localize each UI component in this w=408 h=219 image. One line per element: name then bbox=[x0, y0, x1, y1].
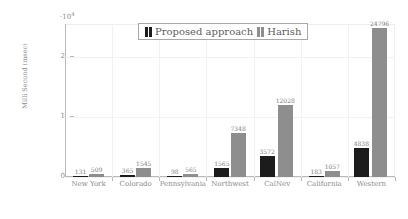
y-gridline bbox=[65, 117, 395, 118]
bar-group: 15657348 bbox=[206, 126, 253, 177]
y-tick-label: 2 bbox=[0, 52, 70, 60]
bar-wrapper: 183 bbox=[309, 169, 324, 177]
bar-wrapper: 1565 bbox=[214, 161, 229, 177]
bar-wrapper: 12028 bbox=[276, 98, 295, 177]
bar-harish[interactable] bbox=[231, 133, 246, 177]
category-gridline bbox=[112, 24, 113, 177]
y-axis-multiplier-base: ·10 bbox=[60, 13, 71, 21]
bar-proposed-approach[interactable] bbox=[354, 148, 369, 177]
bar-value-label: 3572 bbox=[259, 149, 274, 155]
legend-label-harish: Harish bbox=[267, 26, 301, 37]
bar-wrapper: 565 bbox=[183, 167, 198, 177]
bar-group: 98565 bbox=[159, 167, 206, 177]
bar-value-label: 183 bbox=[310, 169, 321, 175]
bar-wrapper: 98 bbox=[167, 169, 182, 177]
x-tick-label: Pennsylvania bbox=[159, 180, 206, 188]
y-axis-multiplier-exponent: 4 bbox=[71, 11, 75, 17]
bar-value-label: 565 bbox=[185, 167, 196, 173]
bar-value-label: 98 bbox=[171, 169, 179, 175]
legend-label-proposed: Proposed approach bbox=[155, 26, 253, 37]
x-tick-label: California bbox=[301, 180, 348, 188]
legend-entry-proposed: Proposed approach bbox=[145, 26, 253, 37]
bar-value-label: 1545 bbox=[136, 161, 151, 167]
bar-proposed-approach[interactable] bbox=[167, 176, 182, 177]
bar-wrapper: 3572 bbox=[259, 149, 274, 177]
bar-wrapper: 24796 bbox=[370, 21, 389, 177]
bar-proposed-approach[interactable] bbox=[260, 156, 275, 177]
y-gridline bbox=[65, 177, 395, 178]
x-tick-label: CalNev bbox=[254, 180, 301, 188]
bar-harish[interactable] bbox=[372, 28, 387, 177]
bar-wrapper: 1545 bbox=[136, 161, 151, 177]
category-gridline bbox=[301, 24, 302, 177]
x-tick-mark bbox=[395, 177, 396, 181]
bar-value-label: 1565 bbox=[214, 161, 229, 167]
y-tick-label: 1 bbox=[0, 112, 70, 120]
y-tick-label: 0 bbox=[0, 172, 70, 180]
bar-wrapper: 4838 bbox=[354, 141, 369, 177]
legend-entry-harish: Harish bbox=[257, 26, 301, 37]
legend-swatch-harish-icon bbox=[257, 27, 264, 37]
chart-legend: Proposed approach Harish bbox=[138, 23, 308, 40]
bar-wrapper: 7348 bbox=[230, 126, 245, 177]
bar-harish[interactable] bbox=[278, 105, 293, 177]
bar-value-label: 509 bbox=[91, 167, 102, 173]
legend-swatch-proposed-icon bbox=[145, 27, 152, 37]
x-tick-label: Northwest bbox=[206, 180, 253, 188]
bar-proposed-approach[interactable] bbox=[120, 175, 135, 177]
bar-group: 131509 bbox=[65, 167, 112, 177]
bar-value-label: 1057 bbox=[325, 164, 340, 170]
bar-value-label: 7348 bbox=[230, 126, 245, 132]
category-gridline bbox=[159, 24, 160, 177]
x-tick-label: New York bbox=[65, 180, 112, 188]
bar-harish[interactable] bbox=[183, 174, 198, 177]
bar-group: 3651545 bbox=[112, 161, 159, 177]
bar-wrapper: 131 bbox=[73, 169, 88, 177]
bar-proposed-approach[interactable] bbox=[73, 176, 88, 177]
x-tick-label: Colorado bbox=[112, 180, 159, 188]
bar-group: 483824796 bbox=[348, 21, 395, 177]
bar-value-label: 12028 bbox=[276, 98, 295, 104]
bar-value-label: 24796 bbox=[370, 21, 389, 27]
x-tick-label: Western bbox=[348, 180, 395, 188]
bar-value-label: 131 bbox=[75, 169, 86, 175]
y-gridline bbox=[65, 57, 395, 58]
bar-proposed-approach[interactable] bbox=[214, 168, 229, 177]
bar-chart: ·104 Milli Second (msec) 012 13150936515… bbox=[0, 0, 408, 219]
bar-wrapper: 365 bbox=[120, 168, 135, 177]
bar-harish[interactable] bbox=[136, 168, 151, 177]
bar-value-label: 4838 bbox=[354, 141, 369, 147]
bar-group: 357212028 bbox=[254, 98, 301, 177]
bar-wrapper: 1057 bbox=[325, 164, 340, 177]
bar-wrapper: 509 bbox=[89, 167, 104, 177]
bar-value-label: 365 bbox=[122, 168, 133, 174]
y-axis-multiplier: ·104 bbox=[60, 11, 75, 21]
bar-harish[interactable] bbox=[325, 171, 340, 177]
bar-harish[interactable] bbox=[89, 174, 104, 177]
bar-group: 1831057 bbox=[301, 164, 348, 177]
bar-proposed-approach[interactable] bbox=[309, 176, 324, 177]
